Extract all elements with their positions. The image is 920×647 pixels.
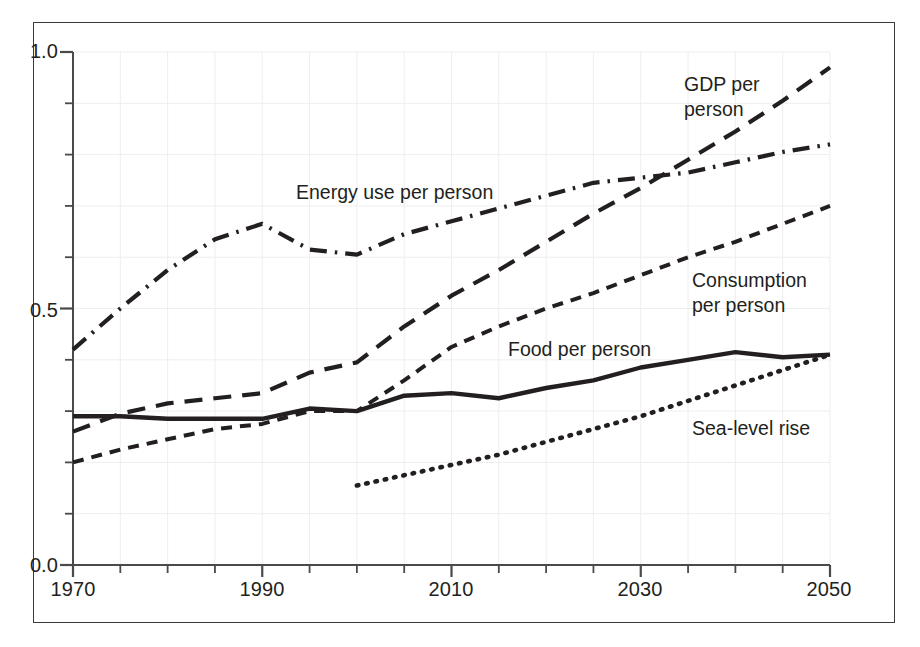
xtick-label-2010: 2010 xyxy=(411,578,491,601)
chart-canvas xyxy=(0,0,920,647)
series-label-gdp-line2: person xyxy=(684,99,744,121)
figure-container: 1.0 0.5 0.0 1970 1990 2010 2030 2050 GDP… xyxy=(0,0,920,647)
series-label-energy: Energy use per person xyxy=(296,182,493,204)
series-label-food: Food per person xyxy=(508,339,651,361)
ytick-label-0: 0.0 xyxy=(8,554,58,577)
series-label-consumption-line2: per person xyxy=(692,295,785,317)
series-label-consumption-line1: Consumption xyxy=(692,270,807,292)
ytick-label-1: 1.0 xyxy=(8,40,58,63)
xtick-label-1970: 1970 xyxy=(33,578,113,601)
series-label-sea: Sea-level rise xyxy=(692,418,810,440)
series-label-gdp-line1: GDP per xyxy=(684,74,760,96)
xtick-label-2050: 2050 xyxy=(789,578,869,601)
ytick-label-0-5: 0.5 xyxy=(8,299,58,322)
xtick-label-1990: 1990 xyxy=(222,578,302,601)
xtick-label-2030: 2030 xyxy=(600,578,680,601)
